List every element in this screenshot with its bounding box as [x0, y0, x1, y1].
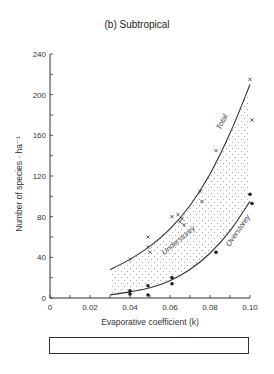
overstorey-point-dot — [248, 193, 252, 197]
total-point-x-marker — [250, 118, 253, 121]
x-axis-label: Evaporative coefficient (k) — [101, 317, 199, 327]
y-tick-label: 0 — [42, 294, 47, 303]
climate-zone-bar — [49, 337, 249, 354]
y-tick-label: 80 — [37, 213, 46, 222]
total-point-x-marker — [248, 78, 251, 81]
chart-plot: 0408012016020024000.020.040.060.080.10Ev… — [0, 0, 274, 374]
y-tick-label: 240 — [33, 50, 47, 59]
overstorey-point-dot — [214, 250, 218, 254]
y-tick-label: 120 — [33, 172, 47, 181]
total-point-x-marker — [176, 213, 179, 216]
x-tick-label: 0.02 — [82, 303, 98, 312]
y-axis-label: Number of species · ha⁻¹ — [14, 136, 24, 232]
understorey-shaded-region — [110, 85, 250, 295]
total-point-x-marker — [146, 235, 149, 238]
y-tick-label: 160 — [33, 131, 47, 140]
overstorey-point-dot — [250, 202, 254, 206]
understorey-area — [110, 85, 250, 295]
x-tick-label: 0.10 — [242, 303, 258, 312]
overstorey-point-dot — [146, 293, 150, 297]
overstorey-point-dot — [146, 284, 150, 288]
x-tick-label: 0.06 — [162, 303, 178, 312]
x-tick-label: 0.08 — [202, 303, 218, 312]
overstorey-point-dot — [128, 292, 132, 296]
y-tick-label: 40 — [37, 253, 46, 262]
total-point-x-marker — [214, 149, 217, 152]
y-tick-label: 200 — [33, 91, 47, 100]
x-tick-label: 0 — [48, 303, 53, 312]
x-tick-label: 0.04 — [122, 303, 138, 312]
overstorey-point-dot — [170, 282, 174, 286]
total-label: Total — [214, 113, 230, 132]
total-point-x-marker — [170, 215, 173, 218]
overstorey-point-dot — [170, 276, 174, 280]
